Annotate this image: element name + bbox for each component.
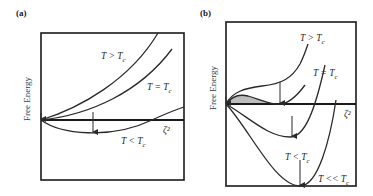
panel-a-ylabel: Free Energy xyxy=(22,76,32,121)
panel-b-label-far-below-tc: T << Tc xyxy=(318,174,350,187)
panel-a-label: (a) xyxy=(16,8,27,18)
panel-b-label-below-tc: T < Tc xyxy=(285,152,311,165)
panel-b: (b) Free Energy T > Tc T = Tc T < Tc T <… xyxy=(200,8,356,187)
panel-a: (a) Free Energy T > Tc T = Tc T < Tc ζ² xyxy=(16,8,184,180)
panel-b-ylabel: Free Energy xyxy=(208,65,218,110)
panel-a-label-at-tc: T = Tc xyxy=(147,82,173,95)
panel-b-label: (b) xyxy=(200,8,211,18)
panel-b-label-at-tc: T = Tc xyxy=(313,68,339,81)
panel-b-xlabel: ζ² xyxy=(344,109,351,120)
panel-b-label-above-tc: T > Tc xyxy=(300,33,326,46)
panel-a-label-above-tc: T > Tc xyxy=(101,51,127,64)
free-energy-diagram: (a) Free Energy T > Tc T = Tc T < Tc ζ² … xyxy=(0,0,373,196)
panel-a-label-below-tc: T < Tc xyxy=(121,136,147,149)
panel-a-curve-above-tc xyxy=(41,33,158,120)
panel-a-xlabel: ζ² xyxy=(163,125,170,136)
